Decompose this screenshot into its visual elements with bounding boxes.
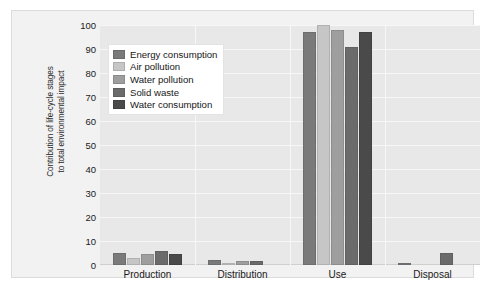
y-axis-tick-labels: 0102030405060708090100 — [60, 25, 96, 265]
y-tick-label: 80 — [60, 68, 96, 79]
bar — [236, 261, 249, 265]
y-tick-label: 90 — [60, 44, 96, 55]
legend-item: Solid waste — [113, 86, 217, 99]
legend-item-label: Energy consumption — [130, 49, 217, 60]
legend-swatch-icon — [113, 50, 125, 59]
legend-item: Water pollution — [113, 73, 217, 86]
legend-item: Air pollution — [113, 61, 217, 74]
bar — [127, 258, 140, 265]
y-tick-label: 10 — [60, 236, 96, 247]
bar — [250, 261, 263, 265]
bar — [359, 32, 372, 265]
bar — [398, 263, 411, 265]
y-tick-label: 70 — [60, 92, 96, 103]
legend-item-label: Water consumption — [130, 99, 212, 110]
legend-item: Water consumption — [113, 98, 217, 111]
bar — [113, 253, 126, 265]
bar — [208, 260, 221, 265]
legend-item-label: Water pollution — [130, 74, 194, 85]
y-tick-label: 60 — [60, 116, 96, 127]
y-axis-title-line-1: Contribution of life-cycle stages — [46, 12, 57, 232]
y-tick-label: 20 — [60, 212, 96, 223]
x-tick-label: Use — [329, 269, 347, 280]
legend-swatch-icon — [113, 62, 125, 71]
bar — [317, 25, 330, 265]
x-axis-tick-labels: ProductionDistributionUseDisposal — [100, 269, 480, 285]
legend-item: Energy consumption — [113, 48, 217, 61]
chart-figure: Contribution of life-cycle stages to tot… — [0, 0, 484, 288]
bar — [345, 47, 358, 265]
y-tick-label: 50 — [60, 140, 96, 151]
y-tick-label: 0 — [60, 260, 96, 271]
legend-item-label: Air pollution — [130, 61, 180, 72]
x-tick-label: Distribution — [217, 269, 267, 280]
figure-panel: Contribution of life-cycle stages to tot… — [11, 10, 474, 278]
bar — [155, 251, 168, 265]
legend-swatch-icon — [113, 75, 125, 84]
legend-item-label: Solid waste — [130, 87, 179, 98]
y-tick-label: 30 — [60, 188, 96, 199]
bar — [331, 30, 344, 265]
bar — [141, 254, 154, 265]
bar — [440, 253, 453, 265]
x-tick-label: Disposal — [413, 269, 451, 280]
legend-swatch-icon — [113, 100, 125, 109]
legend: Energy consumptionAir pollutionWater pol… — [108, 44, 224, 115]
bar-group — [385, 25, 480, 265]
bar — [303, 32, 316, 265]
y-tick-label: 40 — [60, 164, 96, 175]
legend-swatch-icon — [113, 88, 125, 97]
x-tick-label: Production — [124, 269, 172, 280]
y-tick-label: 100 — [60, 20, 96, 31]
bar — [169, 254, 182, 265]
bar — [222, 263, 235, 265]
bar-group — [290, 25, 385, 265]
